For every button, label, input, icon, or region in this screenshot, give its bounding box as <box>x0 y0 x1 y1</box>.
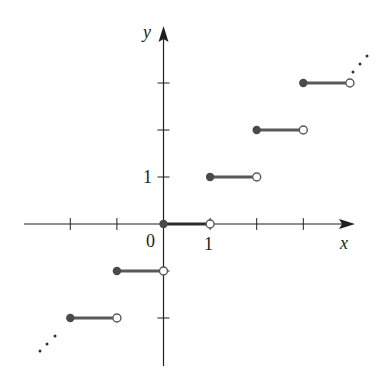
continuation-dot-upper <box>352 71 355 74</box>
step-segment <box>113 267 168 275</box>
closed-endpoint-dot <box>66 314 74 322</box>
step-segment <box>206 173 261 181</box>
y-axis-label: y <box>141 22 151 42</box>
x-tick-label-1: 1 <box>204 234 213 254</box>
axes <box>24 26 355 366</box>
y-tick-label-1: 1 <box>143 167 152 187</box>
open-endpoint-dot <box>160 267 168 275</box>
continuation-dot-lower <box>39 350 42 353</box>
continuation-dot-lower <box>46 343 49 346</box>
closed-endpoint-dot <box>113 267 121 275</box>
step-segments <box>66 79 354 322</box>
open-endpoint-dot <box>113 314 121 322</box>
step-function-plot: y x 0 1 1 <box>0 0 383 381</box>
closed-endpoint-dot <box>159 220 167 228</box>
axis-ticks <box>70 83 303 318</box>
step-segment <box>299 79 354 87</box>
closed-endpoint-dot <box>253 126 261 134</box>
continuation-dot-upper <box>366 55 369 58</box>
continuation-dot-lower <box>54 335 57 338</box>
closed-endpoint-dot <box>299 79 307 87</box>
x-axis-label: x <box>339 233 348 253</box>
continuation-dot-upper <box>359 63 362 66</box>
open-endpoint-dot <box>253 173 261 181</box>
open-endpoint-dot <box>206 220 214 228</box>
open-endpoint-dot <box>346 79 354 87</box>
continuation-dots <box>39 55 369 353</box>
closed-endpoint-dot <box>206 173 214 181</box>
origin-label: 0 <box>146 231 155 251</box>
step-segment <box>159 220 214 228</box>
step-segment <box>253 126 308 134</box>
open-endpoint-dot <box>299 126 307 134</box>
step-segment <box>66 314 121 322</box>
